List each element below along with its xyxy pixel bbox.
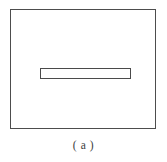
outer-boundary-rectangle: [10, 9, 156, 129]
inner-horizontal-bar: [40, 68, 131, 79]
figure-caption: ( a ): [0, 137, 167, 153]
figure-panel: ( a ): [0, 0, 167, 162]
